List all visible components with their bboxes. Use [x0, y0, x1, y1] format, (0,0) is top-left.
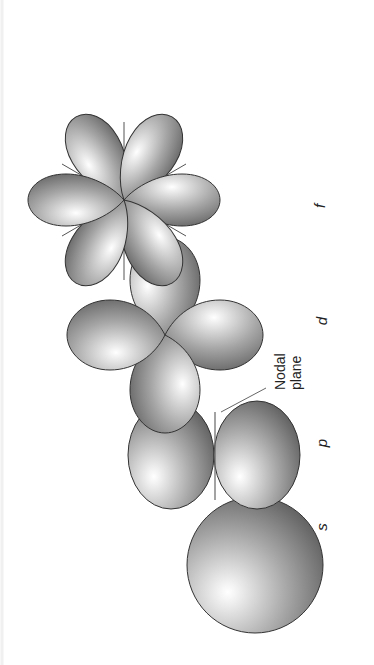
label-s: s — [313, 523, 330, 531]
s-orbital — [187, 497, 323, 633]
nodal-plane-label-line1: Nodal — [272, 353, 288, 390]
label-p: p — [313, 439, 330, 448]
label-f: f — [311, 202, 328, 208]
nodal-plane-label-line2: plane — [288, 356, 304, 390]
orbital-diagram: s p d f Nodal plane — [0, 0, 374, 665]
label-d: d — [313, 316, 330, 325]
